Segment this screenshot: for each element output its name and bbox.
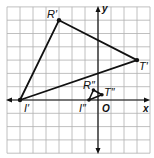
label-y-axis: y [102, 4, 108, 14]
label-x-axis: x [143, 104, 149, 114]
label-t-prime: T′ [139, 61, 148, 72]
triangle-image-2 [89, 90, 102, 100]
label-t-double-prime: T″ [104, 87, 115, 98]
vertex-point [57, 18, 61, 22]
label-r-prime: R′ [47, 9, 57, 20]
label-r-double-prime: R″ [83, 80, 95, 91]
label-i-double-prime: I″ [79, 103, 86, 114]
x-axis-arrow-right-icon [144, 98, 150, 103]
coordinate-plane: R′ T′ I′ I″ R″ T″ O x y [0, 0, 154, 158]
graph-svg [0, 0, 154, 158]
label-origin: O [102, 104, 110, 114]
vertex-point [18, 98, 22, 102]
vertex-point [87, 98, 91, 102]
label-i-prime: I′ [24, 103, 29, 114]
